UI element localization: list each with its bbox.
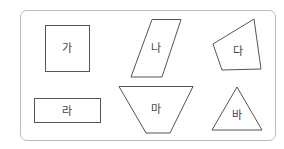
shape-na-parallelogram: 나 [131, 20, 181, 78]
shape-ra-rectangle: 라 [35, 99, 101, 123]
shape-ba-triangle: 바 [212, 87, 262, 130]
shape-ma-trapezoid: 마 [119, 87, 193, 134]
shape-label-ga: 가 [62, 42, 72, 55]
shape-label-ma: 마 [151, 103, 161, 116]
shape-label-ra: 라 [62, 105, 72, 118]
shape-label-na: 나 [151, 42, 161, 55]
shapes-canvas: 가 나 다 라 마 바 [0, 0, 284, 149]
shape-label-da: 다 [233, 45, 243, 58]
shape-label-ba: 바 [232, 109, 242, 122]
shape-da-quadrilateral: 다 [213, 19, 261, 70]
shape-ga-square: 가 [46, 26, 90, 72]
